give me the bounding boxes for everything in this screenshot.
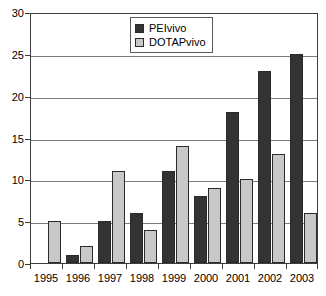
gridline (31, 140, 317, 141)
x-axis: 199519961997199819992000200120022003 (30, 272, 318, 288)
y-tick-mark (25, 139, 30, 140)
x-tick-label-2001: 2001 (226, 272, 250, 285)
x-tick-mark (286, 264, 287, 269)
bar-1997-peivivo (98, 221, 111, 263)
gridline (31, 56, 317, 57)
y-tick-mark (25, 264, 30, 265)
y-tick-mark (25, 222, 30, 223)
bar-chart: 051015202530 199519961997199819992000200… (0, 0, 326, 296)
x-tick-label-1996: 1996 (66, 272, 90, 285)
bar-2003-dotapvivo (304, 213, 317, 263)
bar-2000-peivivo (194, 196, 207, 263)
bar-2001-peivivo (226, 112, 239, 263)
legend-label: PEIvivo (149, 23, 186, 34)
x-tick-mark (62, 264, 63, 269)
legend-swatch-peivivo (135, 24, 144, 33)
bar-1998-dotapvivo (144, 230, 157, 263)
x-tick-mark (30, 264, 31, 269)
x-tick-mark (222, 264, 223, 269)
bar-2003-peivivo (290, 54, 303, 263)
bar-2001-dotapvivo (240, 179, 253, 263)
bar-1995-dotapvivo (48, 221, 61, 263)
legend-swatch-dotapvivo (135, 38, 144, 47)
bar-1998-peivivo (130, 213, 143, 263)
y-axis: 051015202530 (0, 13, 24, 264)
gridline (31, 98, 317, 99)
x-tick-mark (317, 264, 318, 269)
x-tick-label-2003: 2003 (290, 272, 314, 285)
legend-item-dotapvivo[interactable]: DOTAPvivo (135, 35, 206, 49)
bar-2000-dotapvivo (208, 188, 221, 263)
y-tick-label: 10 (12, 175, 24, 186)
x-tick-mark (254, 264, 255, 269)
y-tick-label: 30 (12, 8, 24, 19)
x-tick-label-2002: 2002 (258, 272, 282, 285)
y-tick-label: 15 (12, 133, 24, 144)
y-tick-label: 0 (18, 259, 24, 270)
bar-1996-dotapvivo (80, 246, 93, 263)
y-tick-mark (25, 13, 30, 14)
x-tick-mark (190, 264, 191, 269)
y-tick-mark (25, 55, 30, 56)
x-tick-label-1999: 1999 (162, 272, 186, 285)
x-tick-label-1998: 1998 (130, 272, 154, 285)
x-tick-label-1997: 1997 (98, 272, 122, 285)
x-tick-mark (126, 264, 127, 269)
y-tick-label: 20 (12, 91, 24, 102)
bar-1999-peivivo (162, 171, 175, 263)
bar-2002-peivivo (258, 71, 271, 263)
legend-item-peivivo[interactable]: PEIvivo (135, 21, 206, 35)
y-tick-label: 5 (18, 217, 24, 228)
x-tick-mark (94, 264, 95, 269)
bar-2002-dotapvivo (272, 154, 285, 263)
legend-label: DOTAPvivo (149, 37, 206, 48)
y-tick-mark (25, 97, 30, 98)
bar-1997-dotapvivo (112, 171, 125, 263)
x-tick-label-1995: 1995 (34, 272, 58, 285)
x-tick-label-2000: 2000 (194, 272, 218, 285)
bar-1999-dotapvivo (176, 146, 189, 263)
y-tick-label: 25 (12, 49, 24, 60)
x-axis-ticks (30, 264, 318, 269)
bar-1996-peivivo (66, 255, 79, 263)
x-tick-mark (158, 264, 159, 269)
legend: PEIvivoDOTAPvivo (130, 17, 213, 53)
y-tick-mark (25, 180, 30, 181)
